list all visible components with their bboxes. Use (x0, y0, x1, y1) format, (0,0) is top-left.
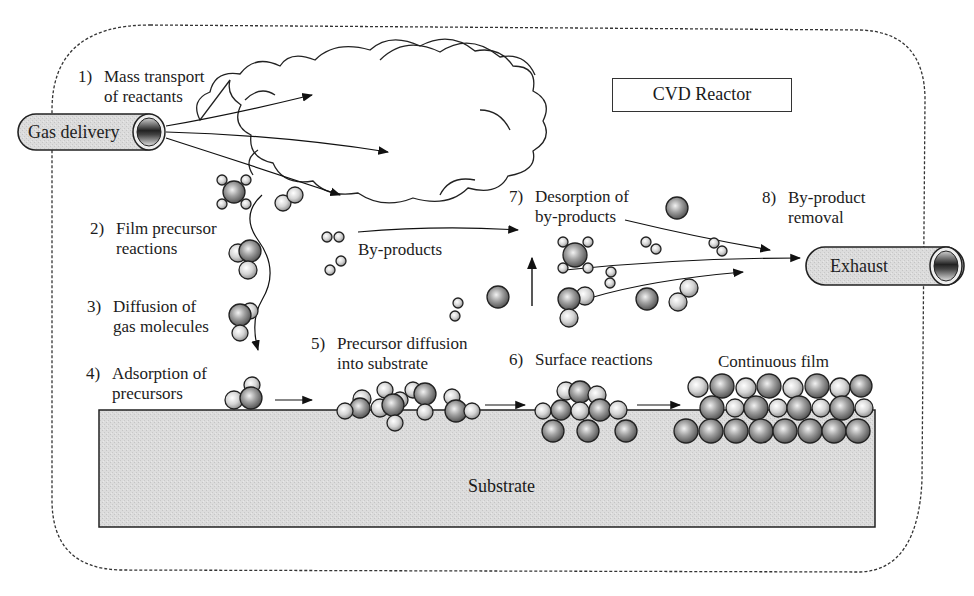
byproducts-label: By-products (358, 240, 442, 260)
substrate-label: Substrate (468, 476, 535, 497)
step-1-label: 1)Mass transport of reactants (78, 67, 205, 107)
exhaust-label: Exhaust (830, 256, 888, 276)
continuous-film (674, 374, 873, 443)
gas-molecules (217, 175, 727, 341)
adsorbed-precursor (225, 377, 262, 409)
step-7-label: 7)Desorption of by-products (509, 187, 629, 227)
step-4-label: 4)Adsorption of precursors (86, 364, 207, 404)
gas-delivery-label: Gas delivery (28, 122, 119, 142)
continuous-film-label: Continuous film (718, 352, 829, 372)
step-3-label: 3)Diffusion of gas molecules (87, 297, 209, 337)
byproducts-arrow (358, 228, 518, 232)
step-2-label: 2)Film precursor reactions (90, 219, 217, 259)
surface-reaction-cluster (535, 381, 637, 442)
step-6-label: 6)Surface reactions (509, 350, 653, 370)
reactor-title: CVD Reactor (612, 78, 792, 112)
step-8-label: 8)By-product removal (762, 188, 865, 228)
step-5-label: 5)Precursor diffusion into substrate (311, 334, 467, 374)
cvd-diagram: CVD Reactor Gas delivery Exhaust 1)Mass … (0, 0, 974, 596)
